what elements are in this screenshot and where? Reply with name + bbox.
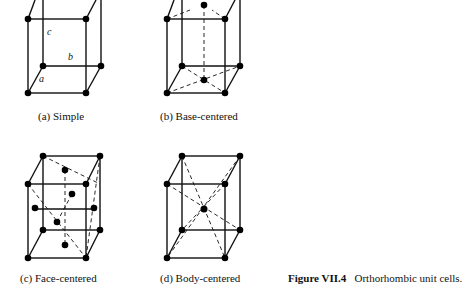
- caption-face-centered: (c) Face-centered: [20, 272, 97, 284]
- caption-simple: (a) Simple: [38, 110, 84, 122]
- figure-caption: Figure VII.4 Orthorhombic unit cells.: [288, 272, 462, 284]
- axis-label-b: b: [68, 51, 73, 62]
- figure-title: Orthorhombic unit cells.: [355, 272, 462, 284]
- axis-label-c: c: [47, 26, 51, 37]
- caption-body-centered: (d) Body-centered: [160, 272, 240, 284]
- caption-base-centered: (b) Base-centered: [160, 110, 238, 122]
- axis-label-a: a: [39, 73, 44, 84]
- figure-number: Figure VII.4: [288, 272, 346, 284]
